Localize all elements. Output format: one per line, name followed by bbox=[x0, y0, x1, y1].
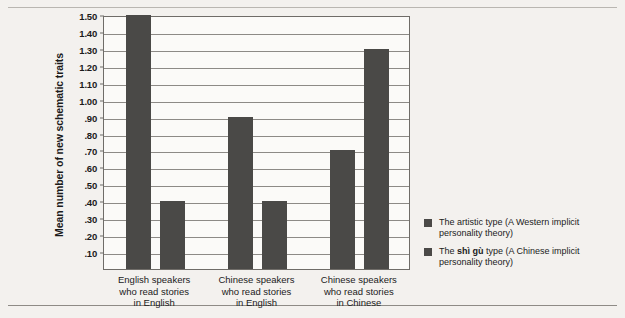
legend-label: The shì gù type (A Chinese implicit pers… bbox=[439, 246, 614, 268]
bar bbox=[228, 117, 253, 269]
bar bbox=[262, 201, 287, 269]
x-axis-category-line: who read stories bbox=[307, 286, 411, 298]
y-axis-tick-label: 1.10 bbox=[79, 78, 97, 89]
y-axis-tick-label: .20 bbox=[84, 231, 97, 242]
x-axis-category-line: Chinese speakers bbox=[307, 274, 411, 286]
x-axis-category-label: English speakerswho read storiesin Engli… bbox=[102, 274, 206, 309]
legend-item[interactable]: The artistic type (A Western implicit pe… bbox=[424, 217, 614, 239]
y-axis-tick-label: 1.20 bbox=[79, 61, 97, 72]
legend-label: The artistic type (A Western implicit pe… bbox=[439, 217, 614, 239]
bar bbox=[330, 150, 355, 269]
x-axis-category-line: Chinese speakers bbox=[205, 274, 309, 286]
y-axis-tick-label: 1.50 bbox=[79, 11, 97, 22]
legend-label-emphasis: shì gù bbox=[457, 246, 484, 256]
legend-item[interactable]: The shì gù type (A Chinese implicit pers… bbox=[424, 246, 614, 268]
y-axis-tick-label: .70 bbox=[84, 146, 97, 157]
plot-area bbox=[103, 16, 410, 270]
y-axis-tick-label: .80 bbox=[84, 129, 97, 140]
x-axis-labels: English speakerswho read storiesin Engli… bbox=[103, 274, 410, 314]
legend-swatch-icon bbox=[424, 219, 432, 227]
x-axis-category-line: who read stories bbox=[205, 286, 309, 298]
y-axis-tick-label: .90 bbox=[84, 112, 97, 123]
chart-figure: Mean number of new schematic traits 1.50… bbox=[0, 0, 625, 318]
x-axis-category-line: in Chinese bbox=[307, 297, 411, 309]
y-axis-tick-label: 1.40 bbox=[79, 27, 97, 38]
x-axis-category-label: Chinese speakerswho read storiesin Chine… bbox=[307, 274, 411, 309]
x-axis-category-line: in English bbox=[102, 297, 206, 309]
y-axis-tick-label: .40 bbox=[84, 197, 97, 208]
bar bbox=[126, 15, 151, 269]
y-axis-tick-label: .60 bbox=[84, 163, 97, 174]
y-axis-tick-label: 1.30 bbox=[79, 44, 97, 55]
y-axis-tick-label: .50 bbox=[84, 180, 97, 191]
bar bbox=[160, 201, 185, 269]
bar bbox=[364, 49, 389, 269]
x-axis-category-label: Chinese speakerswho read storiesin Engli… bbox=[205, 274, 309, 309]
legend-swatch-icon bbox=[424, 248, 432, 256]
y-axis-tick-label: 1.00 bbox=[79, 95, 97, 106]
x-axis-category-line: English speakers bbox=[102, 274, 206, 286]
chart-legend: The artistic type (A Western implicit pe… bbox=[424, 217, 614, 275]
x-axis-category-line: in English bbox=[205, 297, 309, 309]
x-axis-category-line: who read stories bbox=[102, 286, 206, 298]
y-axis-tick-label: .10 bbox=[84, 248, 97, 259]
y-axis-tick-label: .30 bbox=[84, 214, 97, 225]
y-axis-ticks: 1.501.401.301.201.101.00.90.80.70.60.50.… bbox=[62, 14, 100, 271]
